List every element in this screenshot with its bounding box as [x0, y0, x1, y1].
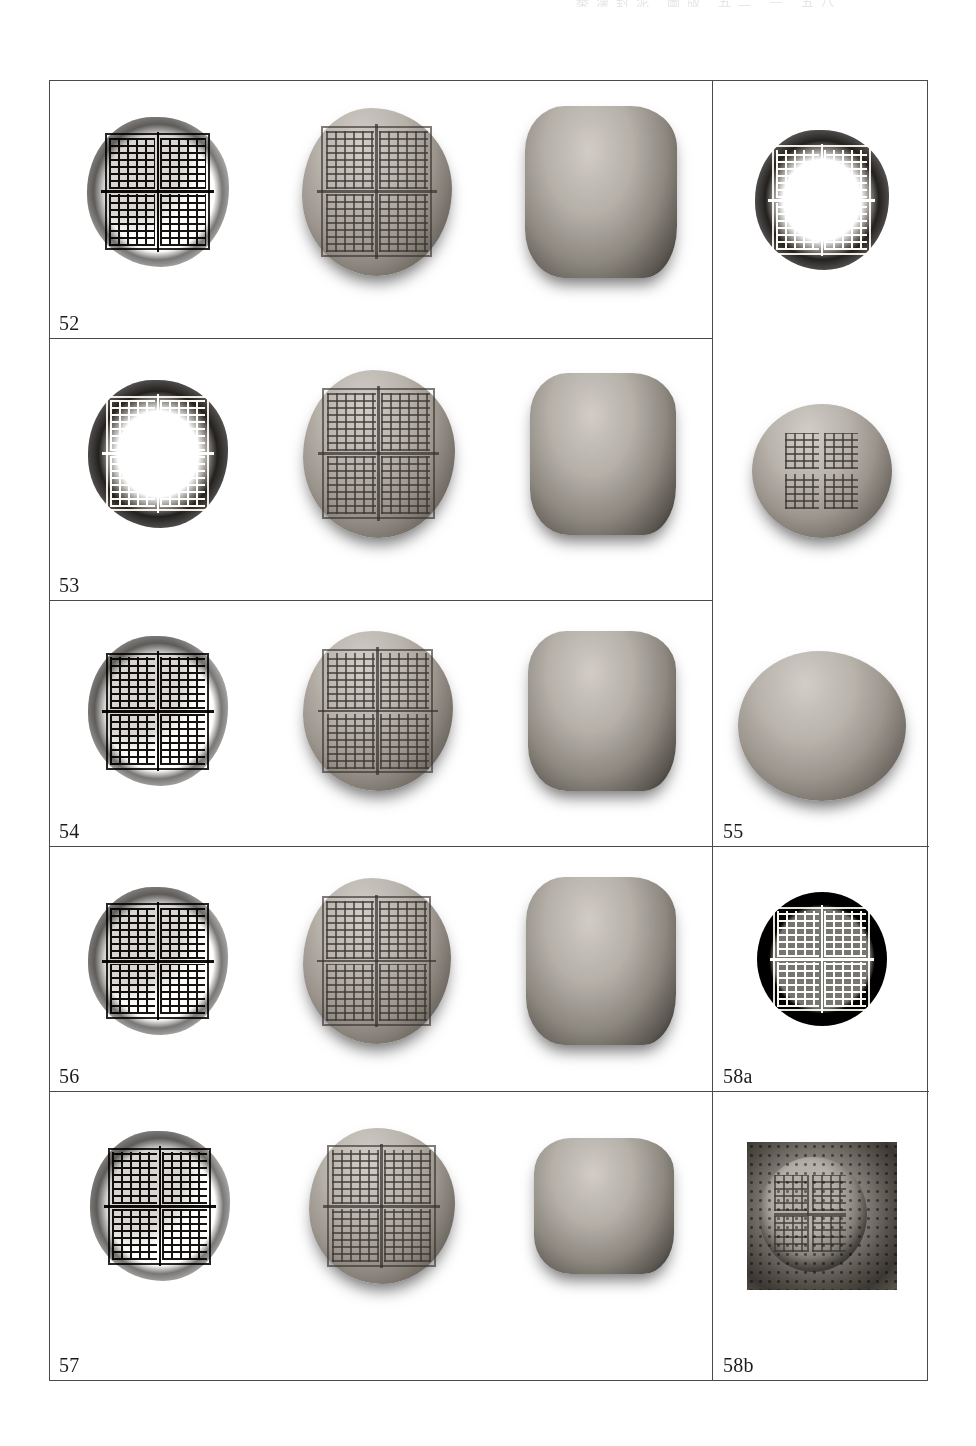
specimen-54-side-photo [528, 631, 676, 791]
entry-label: 54 [59, 821, 80, 841]
entry-label: 58b [723, 1355, 754, 1375]
specimen-56-side-photo [526, 877, 676, 1045]
entry-label: 55 [723, 821, 744, 841]
seal-cross-horizontal [770, 958, 874, 961]
entry-label: 57 [59, 1355, 80, 1375]
plate-entry-56[interactable]: 56 [50, 847, 713, 1091]
specimen-53-face-photo [303, 370, 455, 538]
seal-cross-horizontal [774, 1213, 846, 1216]
specimen-55-photo [738, 651, 906, 801]
specimen-right-top-rubbing [755, 130, 889, 270]
seal-cross-horizontal [102, 452, 214, 455]
seal-cross-horizontal [101, 190, 215, 193]
entry-label: 53 [59, 575, 80, 595]
entry-label: 56 [59, 1066, 80, 1086]
seal-glyphs [774, 1175, 846, 1252]
specimen-54-face-photo [303, 631, 453, 791]
specimen-52-side-photo [525, 106, 677, 278]
seal-cross-horizontal [104, 1205, 216, 1208]
specimen-57-side-photo [534, 1138, 674, 1274]
specimen-57-rubbing [90, 1131, 230, 1281]
seal-cross-horizontal [318, 710, 438, 713]
seal-cross-horizontal [318, 452, 440, 455]
specimen-58b-photo [747, 1142, 897, 1290]
plate-entry-52[interactable]: 52 [50, 81, 713, 338]
seal-cross-horizontal [102, 710, 214, 713]
seal-body [759, 1157, 867, 1272]
plate-entry-53[interactable]: 53 [50, 339, 713, 600]
specimen-56-rubbing [88, 887, 228, 1035]
entry-label: 58a [723, 1066, 753, 1086]
plate-entry-right-unlabeled[interactable]: 55 [714, 81, 929, 846]
plate-entry-54[interactable]: 54 [50, 601, 713, 846]
running-header: 秦漢封泥 圖版 五二 — 五八 [576, 0, 936, 7]
specimen-52-rubbing [87, 117, 229, 267]
seal-cross-horizontal [768, 199, 875, 202]
specimen-53-rubbing [88, 380, 228, 528]
specimen-52-face-photo [302, 108, 452, 276]
seal-glyphs [785, 433, 858, 508]
specimen-right-mid-photo [752, 404, 892, 538]
plate-table: 52 53 [49, 80, 928, 1381]
specimen-53-side-photo [530, 373, 676, 535]
specimen-54-rubbing [88, 636, 228, 786]
plate-entry-57[interactable]: 57 [50, 1092, 713, 1380]
plate-entry-58b[interactable]: 58b [714, 1092, 929, 1380]
specimen-57-face-photo [309, 1128, 455, 1284]
seal-cross-horizontal [317, 960, 435, 963]
seal-cross-horizontal [102, 960, 214, 963]
specimen-58a-rubbing [757, 892, 887, 1026]
seal-cross-vertical [807, 1175, 810, 1252]
plate-entry-58a[interactable]: 58a [714, 847, 929, 1091]
entry-label: 52 [59, 313, 80, 333]
seal-cross-horizontal [323, 1205, 440, 1208]
specimen-56-face-photo [303, 878, 451, 1044]
seal-cross-horizontal [317, 190, 437, 193]
